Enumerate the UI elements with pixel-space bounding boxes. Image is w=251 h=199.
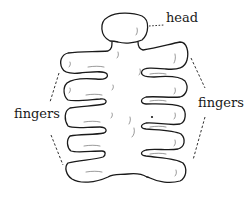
left-finger-outline [61, 42, 147, 182]
right-fingers-pointer-upper [191, 58, 205, 88]
fingers-label-right: fingers [198, 96, 244, 109]
head-outline [102, 13, 148, 43]
shading-marks [69, 28, 176, 176]
left-fingers-pointer-lower [51, 135, 63, 165]
right-fingers-pointer-lower [193, 117, 205, 160]
head-label: head [166, 11, 198, 24]
head-pointer-line [149, 25, 164, 26]
right-finger-outline [138, 42, 188, 182]
dot-mark [151, 116, 153, 118]
fingers-label-left: fingers [14, 107, 60, 120]
left-fingers-pointer-upper [50, 73, 59, 102]
